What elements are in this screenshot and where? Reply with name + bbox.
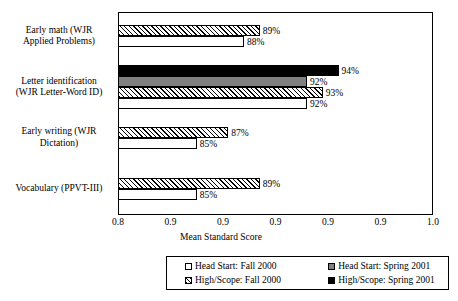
category-label-line: Vocabulary (PPVT-III) — [0, 183, 118, 195]
x-tick-label: 0.9 — [313, 217, 343, 227]
legend-item-head-start-spring-2001: Head Start: Spring 2001 — [320, 261, 448, 272]
category-label-2: Early writing (WJRDictation) — [0, 126, 118, 149]
bar-value-label: 89% — [263, 26, 280, 37]
category-label-line: Letter identification — [0, 76, 118, 88]
bar-3-white — [118, 189, 197, 200]
legend-swatch-gray-icon — [328, 263, 335, 270]
bar-value-label: 87% — [231, 128, 248, 139]
bar-0-hatch — [118, 25, 260, 36]
category-label-line: Early math (WJR — [0, 25, 118, 37]
bar-1-black — [118, 65, 339, 76]
chart-legend: Head Start: Fall 2000 Head Start: Spring… — [166, 256, 449, 290]
x-tick-label: 0.9 — [208, 217, 238, 227]
category-label-0: Early math (WJRApplied Problems) — [0, 25, 118, 48]
x-axis-title-text: Mean Standard Score — [180, 232, 262, 242]
legend-label: Head Start: Fall 2000 — [195, 261, 277, 272]
bar-value-label: 93% — [326, 88, 343, 99]
bar-value-label: 89% — [263, 179, 280, 190]
bar-value-label: 85% — [200, 190, 217, 201]
x-axis-title: Mean Standard Score — [0, 232, 458, 242]
bar-chart-figure: Early math (WJRApplied Problems)Letter i… — [0, 0, 458, 301]
x-tick-label: 1.0 — [418, 217, 448, 227]
bar-value-label: 92% — [310, 99, 327, 110]
legend-label: High/Scope: Fall 2000 — [195, 275, 281, 286]
legend-swatch-white-icon — [185, 263, 192, 270]
x-tick-label: 0.9 — [155, 217, 185, 227]
legend-swatch-hatch-icon — [185, 277, 192, 284]
legend-item-high-scope-spring-2001: High/Scope: Spring 2001 — [320, 275, 448, 286]
legend-row: Head Start: Fall 2000 Head Start: Spring… — [167, 259, 448, 273]
bar-3-hatch — [118, 178, 260, 189]
bar-value-label: 85% — [200, 139, 217, 150]
bar-2-white — [118, 138, 197, 149]
category-label-3: Vocabulary (PPVT-III) — [0, 183, 118, 195]
category-label-line: Early writing (WJR — [0, 126, 118, 138]
bar-1-gray — [118, 76, 307, 87]
bar-value-label: 94% — [342, 66, 359, 77]
category-label-line: Dictation) — [0, 138, 118, 150]
bar-2-hatch — [118, 127, 228, 138]
category-label-1: Letter identification(WJR Letter-Word ID… — [0, 76, 118, 99]
x-tick-label: 0.9 — [366, 217, 396, 227]
category-label-line: (WJR Letter-Word ID) — [0, 87, 118, 99]
legend-item-head-start-fall-2000: Head Start: Fall 2000 — [167, 261, 320, 272]
legend-swatch-black-icon — [328, 277, 335, 284]
legend-row: High/Scope: Fall 2000 High/Scope: Spring… — [167, 273, 448, 287]
x-tick-label: 0.9 — [261, 217, 291, 227]
legend-label: Head Start: Spring 2001 — [338, 261, 430, 272]
bar-1-white — [118, 98, 307, 109]
bar-value-label: 88% — [247, 37, 264, 48]
legend-label: High/Scope: Spring 2001 — [338, 275, 435, 286]
x-tick-label: 0.8 — [103, 217, 133, 227]
category-label-line: Applied Problems) — [0, 36, 118, 48]
bar-0-white — [118, 36, 244, 47]
legend-item-high-scope-fall-2000: High/Scope: Fall 2000 — [167, 275, 320, 286]
x-axis-ticks: 0.80.90.90.90.90.91.0 — [0, 217, 458, 231]
bar-1-hatch — [118, 87, 323, 98]
